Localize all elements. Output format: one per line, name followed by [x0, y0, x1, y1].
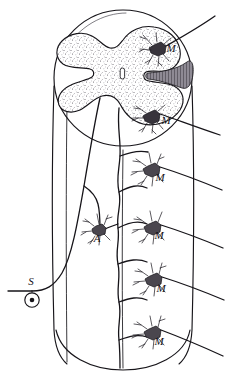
descending-longitudinal-fiber	[117, 108, 120, 368]
motor-axon-4	[161, 225, 223, 248]
motor-neuron-3	[131, 153, 222, 190]
ascending-branch-left	[84, 186, 100, 230]
motor-axon-3	[160, 167, 222, 190]
cylinder-left-wall	[53, 86, 68, 364]
label-A: A	[93, 232, 101, 244]
septum-mid	[122, 150, 123, 368]
motor-neuron-4	[132, 211, 223, 248]
label-S: S	[28, 275, 34, 287]
central-canal	[120, 68, 124, 79]
label-M-5: M	[155, 282, 166, 294]
label-M-2: M	[160, 114, 171, 126]
motor-neuron-6	[132, 316, 223, 356]
motor-neuron-5	[133, 263, 224, 300]
collateral-branch-1	[120, 151, 148, 156]
figure-caption	[0, 379, 233, 389]
figure-root: M M M M M M A S	[0, 0, 233, 389]
sensory-fiber-group	[8, 98, 100, 307]
label-M-3: M	[154, 171, 165, 183]
label-M-1: M	[165, 42, 176, 54]
spinal-cord-drawing: M M M M M M A S	[0, 0, 233, 389]
cylinder-right-wall	[179, 86, 194, 364]
collateral-branch-2	[119, 186, 147, 192]
septum-left	[66, 104, 67, 362]
sensory-ganglion-cell-nucleus	[30, 298, 35, 303]
label-M-6: M	[153, 335, 164, 347]
collateral-branch-5	[119, 298, 147, 302]
cord-cylinder	[53, 86, 194, 370]
label-M-4: M	[153, 229, 164, 241]
